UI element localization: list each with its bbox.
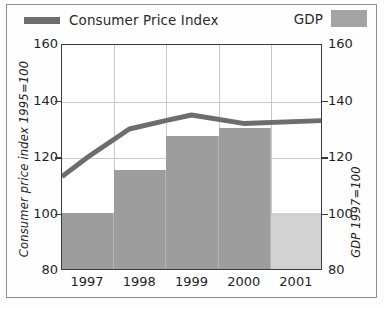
y-tick-left-140: 140 bbox=[18, 93, 58, 108]
legend-box-swatch-icon bbox=[331, 10, 367, 27]
x-tick-1999: 1999 bbox=[162, 274, 222, 289]
chart-figure: Consumer Price Index GDP Consumer price … bbox=[0, 0, 384, 309]
legend-line-swatch-icon bbox=[24, 17, 60, 24]
y-tick-right-80: 80 bbox=[328, 262, 368, 277]
cpi-line-series bbox=[62, 45, 321, 269]
y-tick-left-120: 120 bbox=[18, 149, 58, 164]
y-tick-right-100: 100 bbox=[328, 206, 368, 221]
tick-mark-right-100 bbox=[322, 214, 328, 216]
chart-legend: Consumer Price Index GDP bbox=[6, 4, 377, 38]
tick-mark-left-120 bbox=[55, 157, 61, 159]
x-tick-2001: 2001 bbox=[266, 274, 326, 289]
x-tick-1997: 1997 bbox=[57, 274, 117, 289]
legend-item-gdp: GDP bbox=[294, 10, 367, 27]
y-tick-right-120: 120 bbox=[328, 149, 368, 164]
x-tick-1998: 1998 bbox=[109, 274, 169, 289]
tick-mark-left-100 bbox=[55, 214, 61, 216]
y-tick-right-160: 160 bbox=[328, 36, 368, 51]
legend-label-cpi: Consumer Price Index bbox=[69, 12, 219, 28]
legend-item-cpi: Consumer Price Index bbox=[24, 12, 219, 28]
y-tick-left-100: 100 bbox=[18, 206, 58, 221]
tick-mark-right-140 bbox=[322, 101, 328, 103]
y-tick-left-80: 80 bbox=[18, 262, 58, 277]
y-tick-left-160: 160 bbox=[18, 36, 58, 51]
x-tick-2000: 2000 bbox=[214, 274, 274, 289]
plot-area bbox=[61, 44, 322, 270]
legend-label-gdp: GDP bbox=[294, 11, 323, 27]
y-tick-right-140: 140 bbox=[328, 93, 368, 108]
tick-mark-left-140 bbox=[55, 101, 61, 103]
tick-mark-right-120 bbox=[322, 157, 328, 159]
